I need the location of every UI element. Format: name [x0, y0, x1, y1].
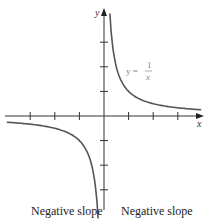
caption-right: Negative slope — [121, 204, 193, 219]
y-axis-arrow — [101, 8, 107, 16]
equation-label: y = 1 x — [126, 60, 152, 82]
hyperbola-plot: x y y = 1 x — [0, 0, 213, 220]
equation-numerator: 1 — [147, 60, 152, 70]
equation-lhs: y = — [126, 66, 138, 76]
curve-positive-branch — [110, 14, 201, 110]
x-axis-label: x — [196, 118, 202, 129]
caption-left: Negative slope — [31, 204, 103, 219]
equation-denominator: x — [145, 72, 150, 82]
y-axis-label: y — [94, 7, 100, 18]
